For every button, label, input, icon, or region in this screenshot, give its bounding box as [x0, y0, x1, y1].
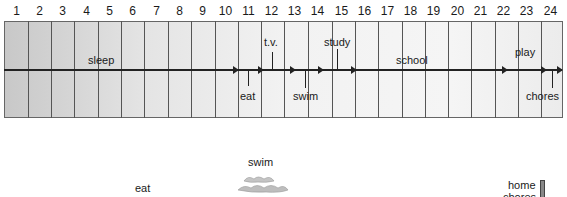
hour-label: 11	[237, 4, 260, 18]
hour-label: 22	[492, 4, 515, 18]
hour-label: 8	[168, 4, 191, 18]
hour-label: 20	[446, 4, 469, 18]
chores-tick	[552, 70, 553, 88]
eat-tick	[248, 70, 249, 86]
hour-label: 13	[283, 4, 306, 18]
hour-label: 16	[353, 4, 376, 18]
arrow-icon	[318, 66, 324, 74]
hour-label: 3	[51, 4, 74, 18]
hour-label: 6	[121, 4, 144, 18]
activity-label-swim: swim	[293, 90, 318, 102]
arrow-icon	[502, 66, 508, 74]
hour-label: 24	[539, 4, 562, 18]
legend-home-label: home	[508, 179, 536, 191]
legend-eat-label: eat	[135, 182, 150, 194]
arrow-icon	[233, 66, 239, 74]
hour-label: 5	[98, 4, 121, 18]
hour-label: 18	[399, 4, 422, 18]
activity-label-play: play	[515, 46, 535, 58]
activity-label-sleep: sleep	[88, 54, 114, 66]
swim-tick	[305, 70, 306, 88]
activity-label-chores: chores	[526, 90, 559, 102]
arrow-icon	[557, 66, 563, 74]
hour-label: 19	[422, 4, 445, 18]
hour-label: 2	[28, 4, 51, 18]
legend-swim-label: swim	[248, 156, 273, 168]
hour-label: 23	[515, 4, 538, 18]
arrow-icon	[351, 66, 357, 74]
legend-chores-label: chores	[503, 191, 536, 197]
hour-label: 10	[214, 4, 237, 18]
tv-tick	[272, 52, 273, 70]
hour-label: 14	[306, 4, 329, 18]
hour-label: 1	[5, 4, 28, 18]
hour-label: 17	[376, 4, 399, 18]
hour-label: 21	[469, 4, 492, 18]
activity-label-school: school	[396, 54, 428, 66]
arrow-icon	[541, 66, 547, 74]
waves-icon	[236, 173, 290, 197]
arrow-icon	[258, 66, 264, 74]
arrow-icon	[290, 66, 296, 74]
study-tick	[337, 49, 338, 70]
activity-label-tv: t.v.	[264, 36, 278, 48]
timeline-axis	[4, 69, 562, 71]
hour-label: 4	[75, 4, 98, 18]
hour-label: 15	[330, 4, 353, 18]
hour-label: 12	[260, 4, 283, 18]
broom-icon	[540, 180, 545, 197]
hour-label: 7	[145, 4, 168, 18]
activity-label-eat: eat	[240, 90, 255, 102]
activity-label-study: study	[324, 36, 350, 48]
hour-label: 9	[191, 4, 214, 18]
